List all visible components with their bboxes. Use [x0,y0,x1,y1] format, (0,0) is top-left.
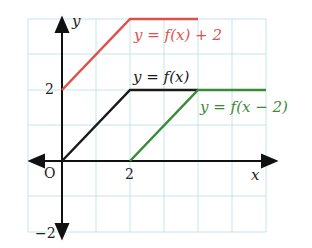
y-arrow-up-icon [56,18,68,32]
y-axis-label: y [72,14,80,29]
x-arrow-left-icon [30,155,44,167]
x-arrow-right-icon [262,155,276,167]
label-f-plus-2: y = f(x) + 2 [134,28,222,43]
x-tick-2: 2 [125,167,134,181]
y-arrow-down-icon [56,224,68,238]
grid [28,19,266,232]
y-tick-neg2: −2 [35,226,56,240]
label-f-shift: y = f(x − 2) [200,100,288,115]
y-tick-2: 2 [45,82,54,96]
origin-label: O [44,166,55,180]
graph-figure: y x O 2 2 −2 y = f(x) + 2 y = f(x) y = f… [0,0,312,248]
axes [30,18,276,238]
x-axis-label: x [251,168,259,183]
label-f: y = f(x) [133,70,189,85]
